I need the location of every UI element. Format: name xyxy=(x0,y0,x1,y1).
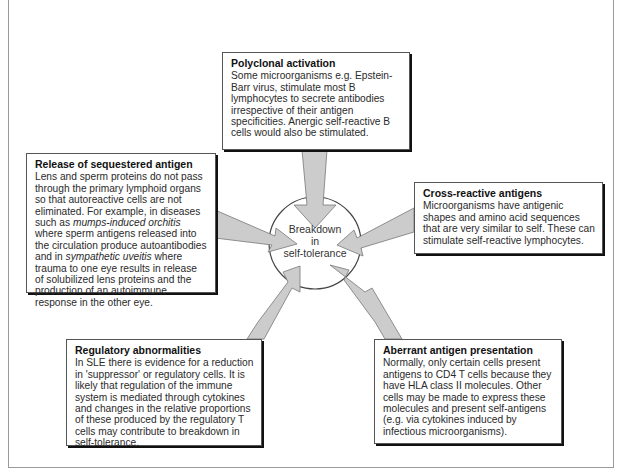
box-title: Aberrant antigen presentation xyxy=(383,345,554,356)
box-title: Polyclonal activation xyxy=(231,58,402,69)
box-title: Release of sequestered antigen xyxy=(35,159,208,170)
center-label-line-1: Breakdown xyxy=(270,223,360,235)
center-label-line-3: self-tolerance xyxy=(270,247,360,259)
box-body: Normally, only certain cells present ant… xyxy=(383,357,554,437)
body-italic-text: mumps-induced orchitis xyxy=(73,217,181,228)
box-title: Regulatory abnormalities xyxy=(75,345,254,356)
center-label-line-2: in xyxy=(270,235,360,247)
box-regulatory-abnormalities: Regulatory abnormalities In SLE there is… xyxy=(66,339,262,446)
box-body: In SLE there is evidence for a reduction… xyxy=(75,357,254,448)
arrow-bottom-left xyxy=(247,266,300,339)
box-title: Cross-reactive antigens xyxy=(423,188,595,199)
box-polyclonal-activation: Polyclonal activation Some microorganism… xyxy=(222,52,410,150)
body-italic-text: sympathetic uveitis xyxy=(66,251,152,262)
box-body: Microorganisms have antigenic shapes and… xyxy=(423,200,595,246)
box-aberrant-antigen-presentation: Aberrant antigen presentation Normally, … xyxy=(374,339,562,444)
box-cross-reactive-antigens: Cross-reactive antigens Microorganisms h… xyxy=(414,182,603,254)
box-sequestered-antigen: Release of sequestered antigen Lens and … xyxy=(26,153,216,293)
center-label: Breakdown in self-tolerance xyxy=(270,223,360,259)
box-body: Some microorganisms e.g. Epstein-Barr vi… xyxy=(231,70,402,138)
box-body: Lens and sperm proteins do not pass thro… xyxy=(35,171,208,308)
